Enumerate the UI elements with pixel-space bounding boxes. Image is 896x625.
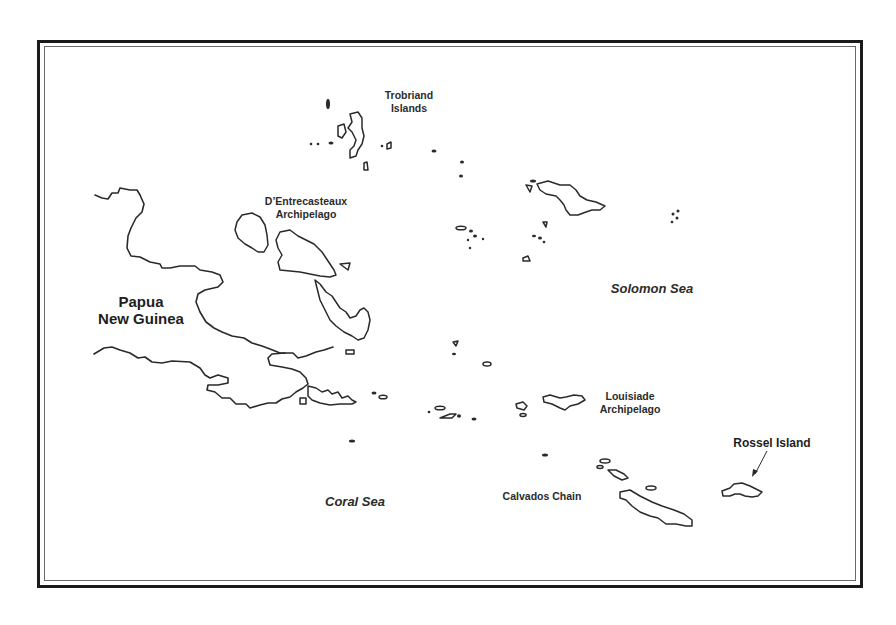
island	[364, 162, 368, 170]
island	[646, 486, 656, 490]
island	[526, 185, 532, 192]
label-louisiade-archipelago: Louisiade Archipelago	[588, 390, 672, 415]
label-trobriand-islands: Trobriand Islands	[374, 89, 444, 114]
tagula-island	[620, 490, 692, 526]
woodlark-island	[537, 181, 605, 215]
island	[600, 459, 610, 463]
island	[346, 350, 354, 354]
island	[520, 414, 526, 417]
label-rossel-island: Rossel Island	[722, 436, 822, 450]
island	[523, 256, 530, 261]
normanby-island	[315, 280, 370, 340]
label-line: Louisiade	[588, 390, 672, 403]
png-south-coast	[94, 347, 308, 408]
island	[608, 470, 628, 480]
label-line: Papua	[96, 293, 186, 310]
label-line: New Guinea	[96, 310, 186, 327]
island	[453, 341, 458, 346]
island	[440, 414, 456, 418]
kiriwina-island	[348, 112, 364, 158]
island	[387, 142, 391, 149]
island	[543, 222, 547, 227]
island	[300, 398, 306, 404]
label-line: Trobriand	[374, 89, 444, 102]
island	[326, 99, 330, 109]
island	[379, 395, 387, 399]
label-line: Archipelago	[252, 208, 360, 221]
island	[597, 466, 603, 469]
island	[516, 402, 527, 410]
label-coral-sea: Coral Sea	[315, 494, 395, 510]
label-dentrecasteaux: D’Entrecasteaux Archipelago	[252, 195, 360, 220]
island	[435, 406, 445, 410]
kaileuna-island	[338, 124, 346, 138]
label-calvados-chain: Calvados Chain	[492, 490, 592, 503]
island	[456, 226, 466, 230]
label-line: Archipelago	[588, 403, 672, 416]
label-line: Islands	[374, 102, 444, 115]
label-papua-new-guinea: Papua New Guinea	[96, 293, 186, 328]
island	[483, 362, 491, 366]
label-line: D’Entrecasteaux	[252, 195, 360, 208]
png-east-tip-islands	[308, 386, 356, 405]
rossel-island	[722, 483, 762, 497]
fergusson-island	[276, 230, 336, 277]
misima-island	[543, 395, 585, 410]
label-solomon-sea: Solomon Sea	[600, 281, 704, 297]
island	[340, 263, 350, 270]
